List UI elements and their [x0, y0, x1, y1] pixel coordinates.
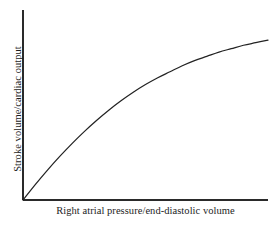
frank-starling-curve: [23, 40, 268, 200]
series-group: [23, 40, 268, 200]
chart-canvas: [0, 0, 272, 225]
cardiac-function-chart: Stroke volume/cardiac output Right atria…: [0, 0, 272, 225]
x-axis-label: Right atrial pressure/end-diastolic volu…: [23, 204, 268, 218]
axes-group: [23, 10, 268, 200]
y-axis-label: Stroke volume/cardiac output: [9, 14, 27, 204]
